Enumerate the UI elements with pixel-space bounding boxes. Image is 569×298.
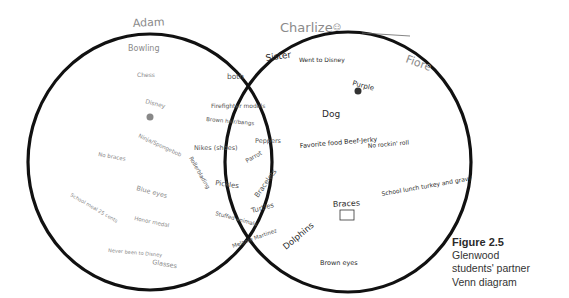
right-smile: ☺: [333, 23, 341, 32]
intersection-label: both: [227, 72, 244, 81]
right-item: Sister: [265, 49, 292, 63]
left-item: No braces: [98, 151, 126, 162]
intersection-item: Firefighter models: [211, 102, 265, 110]
left-item: Never been to Disney: [108, 247, 163, 259]
intersection-item: Pickles: [215, 179, 240, 190]
purple-dot: [355, 88, 362, 95]
right-item: Dolphins: [281, 220, 316, 252]
figure-caption: Figure 2.5 Glenwood students' partner Ve…: [452, 236, 569, 289]
caption-line: students' partner: [452, 262, 569, 275]
right-circle: [225, 32, 471, 292]
right-item: Went to Disney: [299, 56, 345, 64]
right-item: Favorite food Beef-Jerky: [299, 135, 377, 150]
right-item: Brown eyes: [320, 259, 358, 267]
right-item: Braces: [333, 199, 361, 209]
caption-line: Glenwood: [452, 249, 569, 262]
intersection-item: Peppers: [255, 137, 282, 145]
left-item: Ninja/Spongebob: [137, 132, 183, 158]
right-secondary-label: Fiore: [404, 53, 433, 74]
caption-line: Venn diagram: [452, 276, 569, 289]
intersection-item: Parrot: [244, 149, 263, 164]
left-item: Glasses: [152, 258, 179, 270]
right-set-label: Charlize: [280, 20, 333, 35]
right-item: School lunch turkey and gravy: [381, 174, 473, 198]
left-item: Honor medal: [134, 215, 170, 228]
left-item: Blue eyes: [135, 184, 168, 200]
left-item: Bowling: [128, 44, 160, 53]
intersection-item: Rollerblading: [187, 156, 211, 191]
left-item: Chess: [137, 71, 155, 78]
purple-dot: [147, 114, 154, 121]
intersection-item: Nikes (shoes): [194, 144, 238, 152]
left-item: Disney: [144, 97, 166, 110]
left-set-label: Adam: [132, 15, 164, 30]
figure-number: Figure 2.5: [452, 236, 569, 249]
right-item: Dog: [322, 109, 340, 119]
intersection-item: Bracelets: [253, 167, 279, 199]
braces-drawing: [340, 210, 354, 220]
left-item: School meal 25 cents: [70, 192, 120, 224]
